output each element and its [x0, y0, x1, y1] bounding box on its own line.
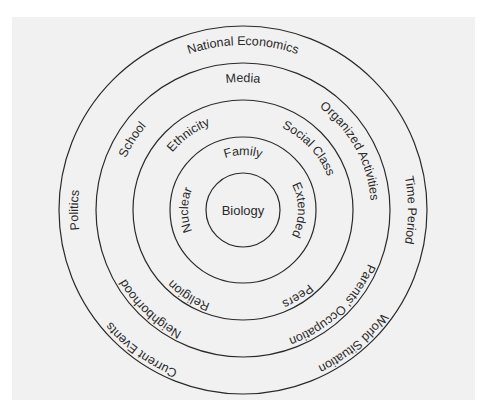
svg-text:Religion: Religion — [165, 277, 212, 313]
label-time-period: Time Period — [402, 175, 419, 246]
svg-text:Social Class: Social Class — [280, 118, 338, 178]
label-ethnicity: Ethnicity — [164, 115, 212, 155]
label-politics: Politics — [67, 189, 82, 231]
label-social-class: Social Class — [280, 118, 338, 178]
svg-text:Organized Activities: Organized Activities — [317, 99, 381, 201]
svg-text:Peers: Peers — [280, 282, 316, 312]
label-nuclear: Nuclear — [177, 185, 195, 234]
svg-text:Family: Family — [0, 0, 240, 161]
label-family: Family — [0, 0, 265, 161]
svg-text:Ethnicity: Ethnicity — [164, 115, 212, 155]
svg-text:Nuclear: Nuclear — [177, 185, 195, 234]
concentric-diagram: Biology Family Extended Nuclear Family S… — [0, 0, 491, 416]
svg-text:School: School — [116, 119, 149, 160]
label-family-wrap: Family — [0, 0, 240, 161]
svg-text:National Economics: National Economics — [0, 0, 246, 57]
svg-text:Extended: Extended — [289, 180, 309, 240]
svg-text:Time Period: Time Period — [402, 175, 419, 246]
label-biology: Biology — [222, 203, 265, 218]
label-school: School — [116, 119, 149, 160]
label-extended: Extended — [289, 180, 309, 240]
label-peers: Peers — [280, 282, 316, 312]
svg-text:National Economics: National Economics — [0, 0, 301, 57]
label-national-economics-wrap: National Economics — [0, 0, 301, 57]
label-religion: Religion — [165, 277, 212, 313]
svg-text:Politics: Politics — [67, 189, 82, 231]
svg-text:Family: Family — [0, 0, 265, 161]
label-organized-activities: Organized Activities — [317, 99, 381, 201]
label-national-economics: National Economics — [0, 0, 246, 57]
